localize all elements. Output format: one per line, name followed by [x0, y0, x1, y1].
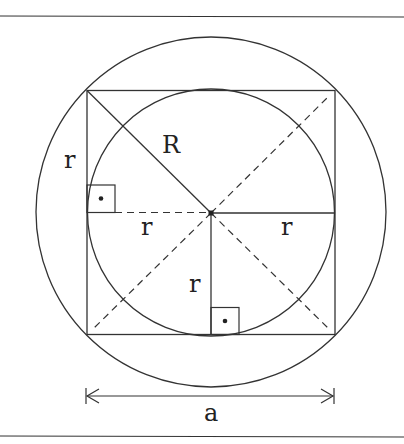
dashed-diagonal-to-bottom-right	[211, 213, 330, 330]
label-R: R	[162, 131, 181, 159]
label-r-center-right: r	[281, 213, 293, 241]
center-point	[209, 211, 214, 216]
right-angle-marker-bottom	[211, 308, 239, 335]
right-angle-marker-left	[87, 185, 115, 213]
label-a: a	[204, 399, 218, 427]
label-r-center-left: r	[141, 213, 153, 241]
top-rule	[0, 16, 404, 17]
label-r-vertical: r	[189, 270, 201, 298]
radius-R-line	[87, 91, 211, 214]
bottom-rule	[0, 436, 404, 437]
geometry-diagram: R r r r r a	[0, 0, 404, 444]
dashed-diagonal-to-top-right	[211, 97, 328, 213]
label-r-left-side: r	[64, 146, 76, 174]
